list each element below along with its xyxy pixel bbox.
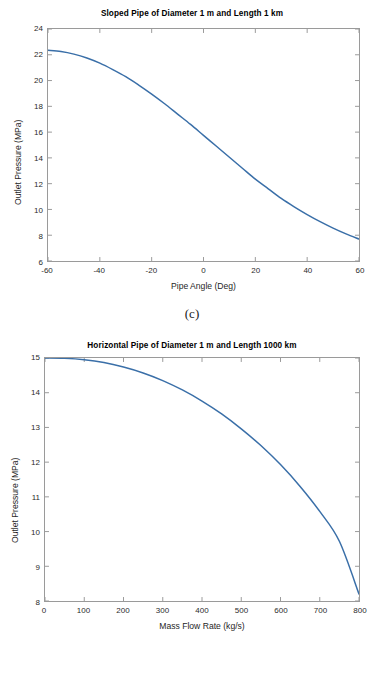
y-tick-label: 9 xyxy=(36,563,40,572)
y-axis-label-c: Outlet Pressure (MPa) xyxy=(13,120,23,205)
figure-page: Sloped Pipe of Diameter 1 m and Length 1… xyxy=(0,0,384,675)
x-tick-label: 20 xyxy=(251,266,260,275)
chart-title-c: Sloped Pipe of Diameter 1 m and Length 1… xyxy=(0,9,384,18)
y-tick-label: 12 xyxy=(34,179,43,188)
chart-title-d: Horizontal Pipe of Diameter 1 m and Leng… xyxy=(0,341,384,350)
x-tick-label: 40 xyxy=(303,266,312,275)
chart-panel-c: Sloped Pipe of Diameter 1 m and Length 1… xyxy=(0,0,384,338)
x-tick-label: 700 xyxy=(314,606,327,615)
y-tick-label: 16 xyxy=(34,128,43,137)
y-axis-ticks-d: 89101112131415 xyxy=(18,357,40,602)
y-tick-label: 10 xyxy=(31,528,40,537)
y-tick-label: 15 xyxy=(31,353,40,362)
chart-canvas-d xyxy=(45,358,359,601)
x-tick-label: 60 xyxy=(356,266,365,275)
chart-panel-d: Horizontal Pipe of Diameter 1 m and Leng… xyxy=(0,331,384,675)
x-tick-label: -20 xyxy=(146,266,158,275)
x-axis-label-c: Pipe Angle (Deg) xyxy=(47,281,360,291)
axes-box-d xyxy=(44,357,360,602)
y-tick-label: 14 xyxy=(31,388,40,397)
y-tick-label: 13 xyxy=(31,423,40,432)
y-tick-label: 20 xyxy=(34,76,43,85)
plot-area-d: Horizontal Pipe of Diameter 1 m and Leng… xyxy=(0,331,384,631)
x-axis-label-d: Mass Flow Rate (kg/s) xyxy=(44,621,360,631)
x-tick-label: -60 xyxy=(41,266,53,275)
x-tick-label: 800 xyxy=(353,606,366,615)
x-tick-label: 500 xyxy=(235,606,248,615)
y-tick-label: 22 xyxy=(34,50,43,59)
tick-marks-c xyxy=(48,29,359,261)
y-tick-label: 18 xyxy=(34,101,43,110)
y-axis-ticks-c: 681012141618202224 xyxy=(21,28,43,262)
axes-box-c xyxy=(47,28,360,262)
x-tick-label: 0 xyxy=(42,606,46,615)
x-tick-label: -40 xyxy=(93,266,105,275)
x-tick-label: 100 xyxy=(77,606,90,615)
data-line-d xyxy=(45,358,359,594)
y-tick-label: 10 xyxy=(34,206,43,215)
y-tick-label: 12 xyxy=(31,458,40,467)
x-axis-ticks-d: 0100200300400500600700800 xyxy=(44,606,360,618)
x-tick-label: 600 xyxy=(274,606,287,615)
plot-area-c: Sloped Pipe of Diameter 1 m and Length 1… xyxy=(0,0,384,300)
y-tick-label: 14 xyxy=(34,154,43,163)
tick-marks-d xyxy=(45,358,359,601)
x-tick-label: 400 xyxy=(195,606,208,615)
x-tick-label: 300 xyxy=(156,606,169,615)
x-tick-label: 200 xyxy=(116,606,129,615)
chart-canvas-c xyxy=(48,29,359,261)
subfigure-caption-c: (c) xyxy=(0,306,384,322)
y-tick-label: 24 xyxy=(34,24,43,33)
y-tick-label: 8 xyxy=(39,232,43,241)
y-tick-label: 8 xyxy=(36,598,40,607)
x-tick-label: 0 xyxy=(201,266,205,275)
y-tick-label: 11 xyxy=(32,493,40,502)
data-line-c xyxy=(48,50,359,239)
x-axis-ticks-c: -60-40-200204060 xyxy=(47,266,360,278)
y-axis-label-d: Outlet Pressure (MPa) xyxy=(10,458,20,543)
